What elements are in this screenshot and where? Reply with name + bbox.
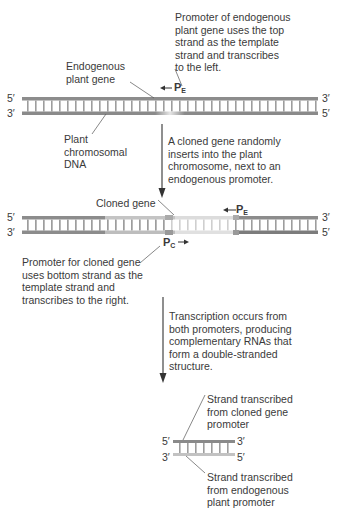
promoter-pe-label: PE [236,203,248,216]
end-label: 5′ [7,211,15,223]
end-label: 3′ [322,211,330,223]
end-label: 5′ [162,435,170,447]
endogenous-promoter-note: Promoter of endogenous plant gene uses t… [175,11,291,74]
dna-step2 [22,200,318,263]
transcription-note: Transcription occurs from both promoters… [169,310,292,373]
end-label: 3′ [7,107,15,119]
endogenous-gene-label: Endogenous plant gene [66,60,125,85]
end-label: 3′ [162,451,170,463]
cloned-promoter-note: Promoter for cloned gene uses bottom str… [22,256,143,306]
end-label: 5′ [7,92,15,104]
end-label: 3′ [322,92,330,104]
cloned-strand-note: Strand transcribed from cloned gene prom… [207,393,293,431]
end-label: 5′ [322,107,330,119]
insertion-note: A cloned gene randomly inserts into the … [168,135,281,185]
plant-dna-label: Plant chromosomal DNA [64,133,127,171]
end-label: 3′ [237,435,245,447]
end-label: 3′ [7,226,15,238]
promoter-pe-label: PE [174,81,186,94]
end-label: 5′ [322,226,330,238]
cloned-gene-label: Cloned gene [96,197,156,210]
promoter-pc-label: PC [163,236,175,249]
endogenous-strand-note: Strand transcribed from endogenous plant… [207,471,293,509]
end-label: 5′ [237,451,245,463]
